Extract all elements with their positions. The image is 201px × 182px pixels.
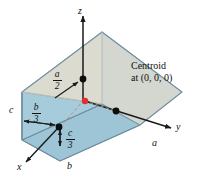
centroid-annotation-line2: at (0, 0, 0) (131, 72, 172, 84)
fraction-b-over-3-numerator: b (30, 103, 42, 113)
edge-a-label: a (152, 138, 157, 148)
fraction-c-over-3-numerator: c (64, 129, 76, 139)
wedge-diagram-svg (0, 0, 201, 182)
fraction-a-over-2-numerator: a (51, 70, 63, 80)
fraction-b-over-3-denominator: 3 (30, 115, 42, 125)
fraction-c-over-3: c 3 (64, 129, 76, 150)
fraction-b-over-3: b 3 (30, 103, 42, 124)
point-a-over-2 (80, 76, 87, 83)
fraction-a-over-2-denominator: 2 (51, 82, 63, 92)
x-axis-label: x (17, 162, 21, 172)
centroid-point (82, 98, 88, 104)
centroid-wedge-figure: z y x a b c a 2 b 3 c 3 Centroid at (0, … (0, 0, 201, 182)
z-axis-label: z (78, 6, 82, 16)
edge-c-label: c (9, 105, 13, 115)
fraction-a-over-2: a 2 (51, 70, 63, 91)
centroid-annotation-line1: Centroid (131, 60, 172, 72)
y-axis-label: y (176, 122, 180, 132)
centroid-annotation: Centroid at (0, 0, 0) (131, 60, 172, 84)
edge-b-label: b (67, 161, 72, 171)
fraction-c-over-3-denominator: 3 (64, 141, 76, 151)
point-on-y-axis (113, 108, 120, 115)
point-b3-c3 (56, 124, 63, 131)
